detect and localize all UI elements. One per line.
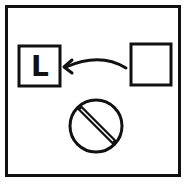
target-box-label: L xyxy=(20,46,60,86)
source-box xyxy=(131,44,171,85)
diagram-canvas xyxy=(0,0,187,189)
prohibition-icon xyxy=(70,100,122,152)
arrow-line xyxy=(66,60,126,68)
